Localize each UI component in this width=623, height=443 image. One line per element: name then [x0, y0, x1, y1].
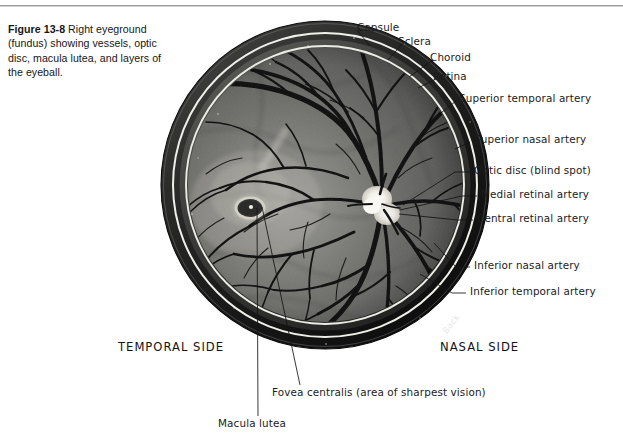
label-fovea-centralis: Fovea centralis (area of sharpest vision…: [272, 387, 486, 398]
label-choroid: Choroid: [430, 52, 471, 63]
label-nasal-side: NASAL SIDE: [440, 342, 519, 353]
label-superior-nasal-artery: Superior nasal artery: [474, 134, 586, 145]
label-capsule: Capsule: [357, 22, 399, 33]
figure-number: Figure 13-8: [8, 23, 65, 35]
label-medial-retinal-artery: Medial retinal artery: [481, 189, 589, 200]
figure-caption: Figure 13-8 Right eyeground (fundus) sho…: [8, 22, 176, 80]
label-macula-lutea: Macula lutea: [218, 418, 286, 429]
label-inferior-temporal-artery: Inferior temporal artery: [470, 286, 596, 297]
figure-page: Figure 13-8 Right eyeground (fundus) sho…: [0, 0, 623, 443]
fundus-illustration: [158, 18, 492, 352]
label-inferior-nasal-artery: Inferior nasal artery: [474, 260, 580, 271]
label-retina: Retina: [433, 71, 467, 82]
label-superior-temporal-artery: Superior temporal artery: [459, 93, 591, 104]
label-optic-disc: Optic disc (blind spot): [474, 165, 591, 176]
label-central-retinal-artery: Central retinal artery: [477, 213, 589, 224]
label-temporal-side: TEMPORAL SIDE: [118, 342, 224, 353]
label-sclera: Sclera: [398, 36, 431, 47]
header-rule: [0, 5, 623, 7]
